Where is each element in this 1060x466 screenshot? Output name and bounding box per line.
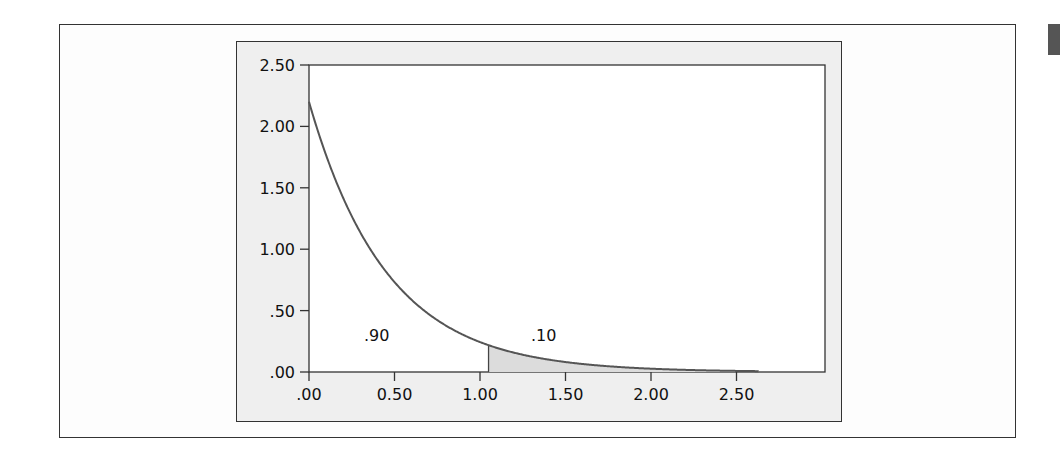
left-area-label: .90	[364, 326, 389, 345]
density-chart: .00.501.001.502.002.50.000.501.001.502.0…	[0, 0, 1060, 466]
y-tick-label: 2.00	[259, 117, 295, 136]
x-tick-label: 1.00	[462, 385, 498, 404]
y-tick-label: .00	[270, 363, 295, 382]
right-area-label: .10	[531, 326, 556, 345]
y-tick-label: .50	[270, 302, 295, 321]
plot-area: .00.501.001.502.002.50.000.501.001.502.0…	[259, 56, 825, 404]
y-tick-label: 2.50	[259, 56, 295, 75]
y-tick-label: 1.50	[259, 179, 295, 198]
x-tick-label: 1.50	[548, 385, 584, 404]
x-tick-label: .00	[296, 385, 321, 404]
x-tick-label: 0.50	[377, 385, 413, 404]
y-tick-label: 1.00	[259, 240, 295, 259]
x-tick-label: 2.00	[633, 385, 669, 404]
x-tick-label: 2.50	[719, 385, 755, 404]
